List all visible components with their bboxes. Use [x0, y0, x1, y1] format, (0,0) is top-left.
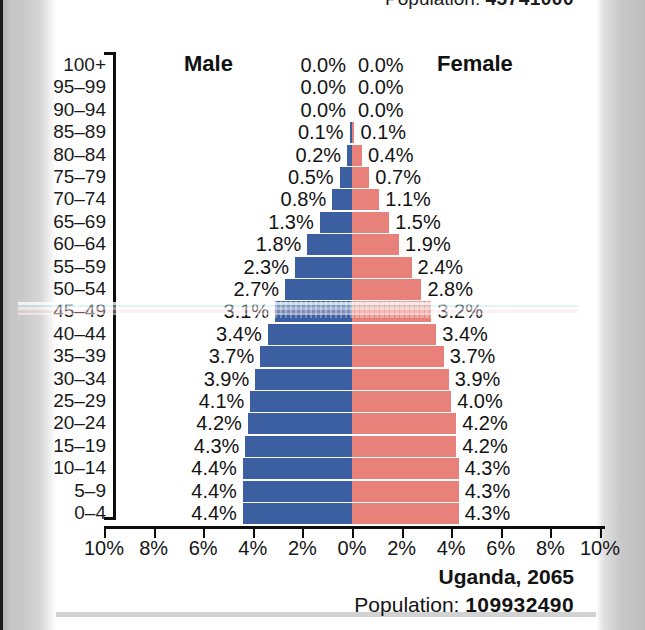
female-bar: [352, 324, 436, 345]
female-bar: [352, 391, 451, 412]
female-bar: [352, 212, 389, 233]
male-bar: [250, 391, 352, 412]
female-value-label: 4.3%: [465, 500, 511, 526]
footer-population-label: Population:: [354, 593, 459, 616]
female-bar: [352, 279, 421, 300]
male-bar: [295, 257, 352, 278]
footer-population: Population: 109932490: [0, 593, 574, 617]
male-bar: [255, 369, 352, 390]
male-value-label: 4.4%: [191, 500, 237, 526]
female-bar: [352, 167, 369, 188]
male-bar: [248, 413, 352, 434]
female-bar: [352, 346, 444, 367]
female-bar: [352, 413, 456, 434]
male-bar: [243, 481, 352, 502]
female-bar: [352, 122, 354, 143]
chart-footer: Uganda, 2065 Population: 109932490: [0, 565, 596, 617]
pyramid-row: 0–44.4%4.3%: [0, 500, 645, 526]
female-bar: [352, 189, 379, 210]
male-bar: [245, 436, 352, 457]
x-axis-tick-label: 10%: [570, 537, 630, 560]
age-group-label: 0–4: [20, 500, 106, 526]
male-bar: [332, 189, 352, 210]
population-pyramid-chart: Male Female 100+0.0%0.0%95–990.0%0.0%90–…: [0, 0, 645, 630]
male-bar: [320, 212, 352, 233]
male-bar: [285, 279, 352, 300]
female-bar: [352, 301, 431, 322]
male-bar: [340, 167, 352, 188]
male-bar: [275, 301, 352, 322]
female-bar: [352, 257, 412, 278]
male-bar: [268, 324, 352, 345]
country-year-label: Uganda, 2065: [0, 565, 574, 589]
footer-population-value: 109932490: [465, 593, 574, 616]
female-bar: [352, 234, 399, 255]
male-bar: [243, 503, 352, 524]
female-bar: [352, 369, 449, 390]
female-bar: [352, 503, 459, 524]
male-bar: [307, 234, 352, 255]
female-bar: [352, 458, 459, 479]
male-bar: [243, 458, 352, 479]
x-axis-line: [104, 526, 605, 529]
male-bar: [260, 346, 352, 367]
female-bar: [352, 481, 459, 502]
female-bar: [352, 145, 362, 166]
female-bar: [352, 436, 456, 457]
